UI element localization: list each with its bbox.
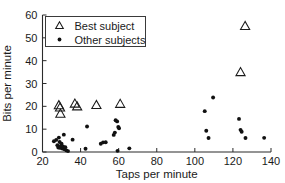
dot-marker: [262, 136, 266, 140]
y-axis-title: Bits per minute: [1, 45, 13, 122]
x-tick-label: 40: [74, 155, 86, 167]
dot-marker: [204, 129, 208, 133]
legend-entry-label: Best subject: [75, 20, 135, 32]
dot-marker: [211, 95, 215, 99]
x-tick-label: 20: [36, 155, 48, 167]
dot-marker: [104, 140, 108, 144]
dot-marker: [115, 119, 119, 123]
x-tick-label: 80: [151, 155, 163, 167]
y-tick-label: 10: [25, 123, 37, 135]
dot-marker: [117, 126, 121, 130]
dot-marker: [240, 130, 244, 134]
y-tick-label: 0: [31, 146, 37, 158]
dot-marker: [116, 149, 120, 153]
dot-marker: [237, 117, 241, 121]
chart-legend: Best subjectOther subjects: [46, 17, 146, 47]
y-tick-label: 20: [25, 100, 37, 112]
dot-marker: [244, 136, 248, 140]
dot-marker: [127, 146, 131, 150]
x-tick-label: 100: [186, 155, 204, 167]
dot-marker: [84, 147, 88, 151]
dot-marker: [113, 131, 117, 135]
y-tick-label: 60: [25, 9, 37, 21]
y-tick-label: 30: [25, 78, 37, 90]
legend-dot-icon: [58, 38, 62, 42]
x-tick-label: 140: [262, 155, 280, 167]
y-tick-label: 40: [25, 55, 37, 67]
x-tick-label: 60: [113, 155, 125, 167]
legend-entry-label: Other subjects: [75, 34, 146, 46]
x-axis-title: Taps per minute: [116, 168, 198, 180]
scatter-chart: 20406080100120140 0102030405060 Best sub…: [0, 0, 285, 183]
dot-marker: [62, 133, 66, 137]
dot-marker: [57, 136, 61, 140]
y-tick-label: 50: [25, 32, 37, 44]
dot-marker: [85, 124, 89, 128]
dot-marker: [66, 149, 70, 153]
dot-marker: [71, 138, 75, 142]
dot-marker: [207, 136, 211, 140]
x-tick-label: 120: [224, 155, 242, 167]
dot-marker: [203, 109, 207, 113]
